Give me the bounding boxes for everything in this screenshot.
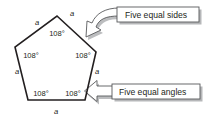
angle-label-bottom-left: 108° <box>33 89 49 98</box>
angle-label-top: 108° <box>49 29 65 38</box>
pentagon-diagram-canvas: a a a a a 108° 108° 108° 108° 108° Five … <box>0 0 205 118</box>
angle-label-bottom-right: 108° <box>65 89 81 98</box>
side-label-left: a <box>15 67 19 76</box>
sides-callout-label: Five equal sides <box>125 10 187 20</box>
geometry-figure: a a a a a 108° 108° 108° 108° 108° Five … <box>0 0 205 118</box>
side-label-top-left: a <box>35 18 39 27</box>
side-label-right: a <box>95 67 99 76</box>
side-label-bottom: a <box>54 107 58 116</box>
angle-label-left: 108° <box>23 51 39 60</box>
angle-label-right: 108° <box>75 51 91 60</box>
angles-callout-label: Five equal angles <box>119 87 186 97</box>
side-label-top-right: a <box>70 9 74 18</box>
